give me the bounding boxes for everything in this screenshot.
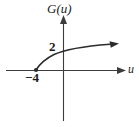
x-axis-arrowhead bbox=[117, 67, 126, 74]
x-axis-label: u bbox=[128, 63, 134, 75]
curve-arrowhead bbox=[110, 41, 120, 48]
y-axis bbox=[60, 15, 67, 121]
function-graph-figure: G(u) u 2 −4 bbox=[0, 0, 139, 127]
y-intercept-tick-label: 2 bbox=[49, 40, 56, 53]
graph-canvas bbox=[0, 0, 139, 127]
y-axis-label: G(u) bbox=[47, 2, 72, 15]
x-axis bbox=[6, 67, 126, 74]
curve-path bbox=[36, 44, 110, 70]
function-curve bbox=[34, 41, 119, 72]
y-axis-arrowhead bbox=[60, 15, 67, 24]
x-intercept-tick-label: −4 bbox=[25, 71, 39, 84]
